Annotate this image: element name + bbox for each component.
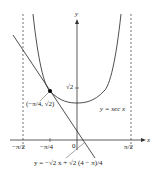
y-axis-label: y xyxy=(75,11,78,18)
tangent-label: y = −√2 x + √2 (4 − π)/4 xyxy=(34,160,103,167)
tangent-line xyxy=(13,35,95,158)
x-axis-arrow-icon xyxy=(141,138,146,142)
origin-label: 0 xyxy=(72,143,76,150)
x-tick-neg-pi-4: −π/4 xyxy=(40,144,53,151)
x-axis-label: x xyxy=(147,137,150,144)
x-tick-neg-pi-2: −π/2 xyxy=(12,144,25,151)
curve-label: y = sec x xyxy=(100,106,125,113)
point-label: (−π/4, √2) xyxy=(26,101,54,108)
y-tick-sqrt2: √2 xyxy=(66,84,73,91)
y-axis-arrow-icon xyxy=(75,19,79,24)
x-tick-pi-2: π/2 xyxy=(124,144,133,151)
